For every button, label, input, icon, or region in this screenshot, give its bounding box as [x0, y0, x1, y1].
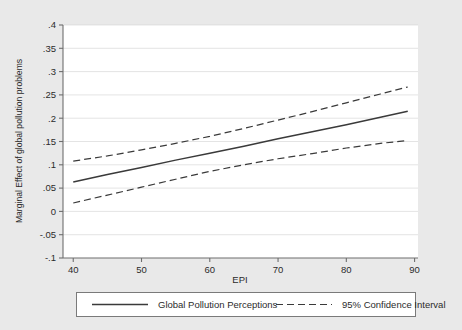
marginal-effects-plot: -.1-.050.05.1.15.2.25.3.35.4 40506070809…	[0, 0, 462, 330]
legend: Global Pollution Perceptions 95% Confide…	[77, 293, 446, 317]
y-tick-label: .4	[48, 19, 56, 30]
y-tick-label: .1	[48, 159, 56, 170]
y-axis-title: Marginal Effect of global pollution prob…	[14, 59, 24, 223]
legend-label-confidence-interval: 95% Confidence Interval	[342, 299, 446, 310]
y-tick-label: -.1	[45, 252, 56, 263]
x-tick-label: 60	[204, 264, 215, 275]
x-tick-label: 40	[68, 264, 79, 275]
x-axis-title: EPI	[232, 274, 247, 285]
x-tick-label: 70	[273, 264, 284, 275]
y-tick-label: .3	[48, 66, 56, 77]
y-tick-label: 0	[51, 206, 56, 217]
x-tick-label: 90	[409, 264, 420, 275]
y-tick-label: -.05	[40, 229, 56, 240]
y-tick-label: .25	[43, 89, 56, 100]
y-tick-label: .15	[43, 136, 56, 147]
y-tick-label: .35	[43, 43, 56, 54]
x-tick-label: 80	[341, 264, 352, 275]
y-tick-label: .05	[43, 182, 56, 193]
y-tick-label: .2	[48, 113, 56, 124]
x-tick-label: 50	[136, 264, 147, 275]
legend-label-main-series: Global Pollution Perceptions	[158, 299, 278, 310]
chart-figure: -.1-.050.05.1.15.2.25.3.35.4 40506070809…	[0, 0, 462, 330]
